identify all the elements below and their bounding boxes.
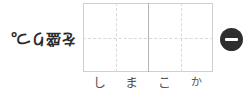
grid-guideline-horizontal bbox=[83, 38, 213, 39]
answer-char-2: ま bbox=[116, 72, 149, 94]
answer-char-1: し bbox=[83, 72, 116, 94]
answer-char-4: か bbox=[181, 72, 214, 94]
handwriting-grid[interactable] bbox=[83, 3, 213, 72]
answer-row: し ま こ か bbox=[83, 72, 213, 94]
prompt-text: を盛りつ。 bbox=[0, 22, 84, 56]
remove-button[interactable] bbox=[220, 28, 243, 51]
worksheet-canvas: を盛りつ。 し ま こ か bbox=[0, 0, 246, 94]
minus-icon bbox=[225, 38, 238, 41]
answer-char-3: こ bbox=[148, 72, 181, 94]
